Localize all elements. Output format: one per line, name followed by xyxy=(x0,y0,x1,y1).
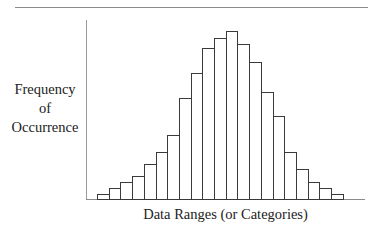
histogram-bar xyxy=(331,194,344,200)
x-axis-label: Data Ranges (or Categories) xyxy=(86,205,365,223)
